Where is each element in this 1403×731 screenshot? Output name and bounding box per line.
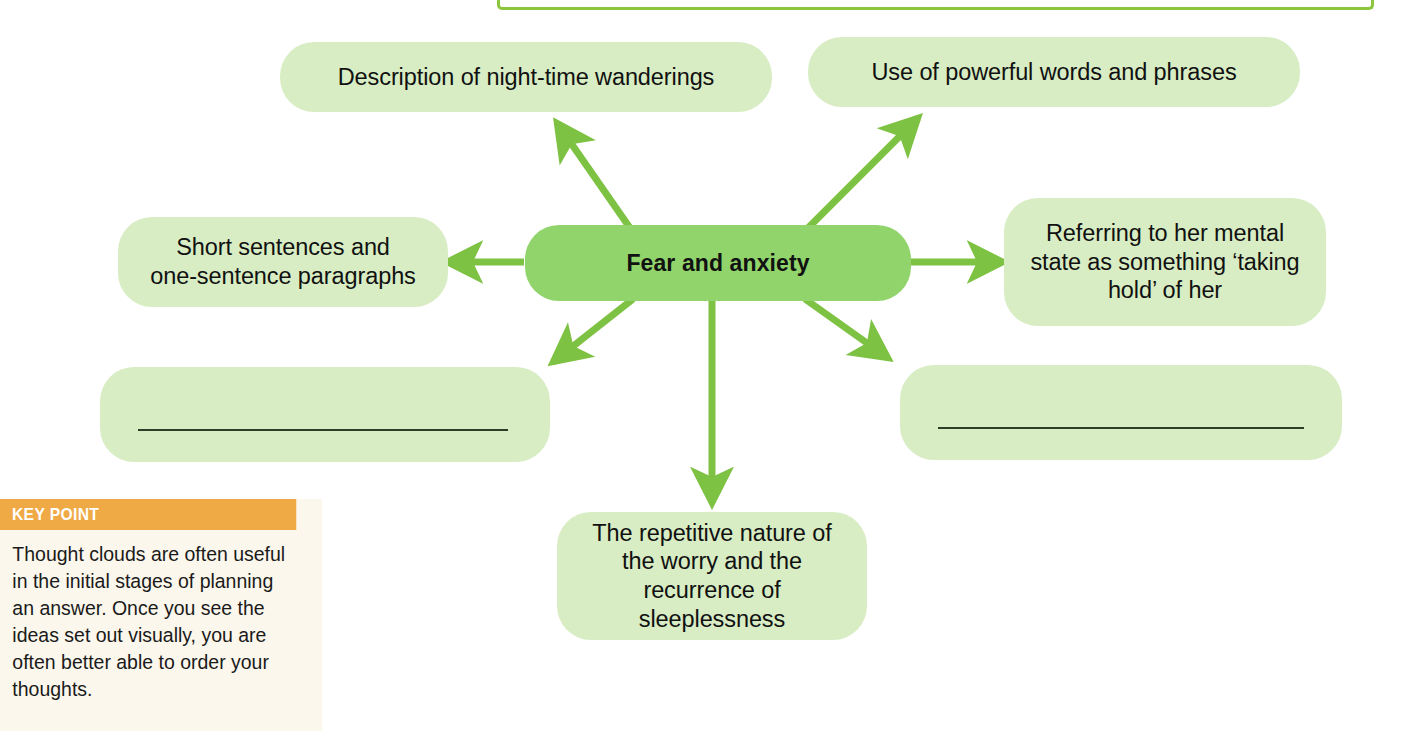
key-point-header: KEY POINT [0,499,296,530]
node-blank-left[interactable] [100,367,550,462]
write-in-line [938,427,1304,429]
node-label: Description of night-time wanderings [338,63,715,92]
arrow-to-powerful-words [808,118,918,228]
node-label: Referring to her mental state as somethi… [1022,219,1308,305]
node-short-sentences[interactable]: Short sentences and one-sentence paragra… [118,217,448,307]
node-night-time-wanderings[interactable]: Description of night-time wanderings [280,42,772,112]
node-label: The repetitive nature of the worry and t… [575,519,849,634]
key-point-body: Thought clouds are often useful in the i… [0,530,306,714]
node-powerful-words[interactable]: Use of powerful words and phrases [808,37,1300,107]
node-mental-state[interactable]: Referring to her mental state as somethi… [1004,198,1326,326]
node-repetitive-nature[interactable]: The repetitive nature of the worry and t… [557,512,867,640]
write-in-line [138,429,508,431]
top-frame-box [497,0,1374,10]
key-point-panel: KEY POINT Thought clouds are often usefu… [0,499,322,731]
arrow-to-night-time-wanderings [557,123,630,228]
node-blank-right[interactable] [900,365,1342,460]
node-label: Short sentences and one-sentence paragra… [150,233,416,290]
arrow-to-blank-right [805,299,888,358]
center-node[interactable]: Fear and anxiety [525,225,911,301]
node-label: Use of powerful words and phrases [871,58,1236,87]
center-node-label: Fear and anxiety [626,249,809,277]
arrow-to-blank-left [553,299,633,362]
mind-map-canvas: Fear and anxiety Description of night-ti… [0,0,1403,731]
